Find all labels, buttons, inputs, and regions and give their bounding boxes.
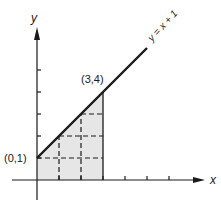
x-axis-label: x [209,173,217,187]
y-axis-label: y [30,11,38,25]
point-label-0-1: (0,1) [4,152,27,164]
diagram-canvas: x y (0,1) (3,4) y = x + 1 [0,0,221,210]
y-axis-arrow-icon [34,27,40,40]
point-label-3-4: (3,4) [81,73,104,85]
equation-label: y = x + 1 [145,8,180,44]
x-axis-arrow-icon [193,177,205,183]
